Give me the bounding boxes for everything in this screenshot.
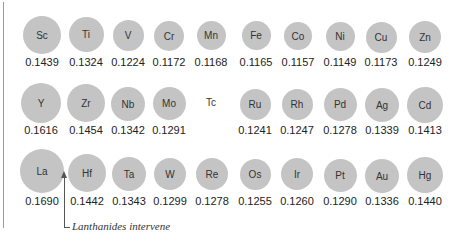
atom-label-tc: Tc: [196, 97, 226, 108]
atom-circle-rh: Rh: [282, 89, 313, 120]
atom-circle-co: Co: [284, 22, 312, 50]
radius-value-cr: 0.1172: [153, 56, 186, 68]
radius-value-ag: 0.1339: [365, 124, 399, 136]
atom-circle-cu: Cu: [366, 22, 397, 53]
radius-value-mn: 0.1168: [195, 56, 228, 68]
radius-value-cu: 0.1173: [365, 56, 398, 68]
atom-circle-zn: Zn: [409, 21, 441, 53]
atom-circle-ag: Ag: [365, 88, 399, 122]
atom-circle-pd: Pd: [324, 88, 357, 121]
radius-value-la: 0.1690: [25, 195, 59, 207]
atom-circle-nb: Nb: [111, 87, 145, 121]
atom-circle-hf: Hf: [68, 154, 106, 192]
radius-value-ta: 0.1343: [112, 195, 146, 207]
atom-circle-fe: Fe: [242, 21, 271, 50]
radius-value-ti: 0.1324: [69, 56, 103, 68]
arrow-line: [64, 175, 65, 228]
lanthanides-note: Lanthanides intervene: [72, 220, 170, 232]
atom-circle-y: Y: [21, 83, 61, 123]
atom-circle-cr: Cr: [154, 21, 184, 51]
radius-value-ni: 0.1149: [324, 56, 357, 68]
atom-circle-ti: Ti: [69, 17, 104, 52]
radius-value-nb: 0.1342: [111, 124, 145, 136]
radius-value-zn: 0.1249: [408, 56, 442, 68]
radius-value-sc: 0.1439: [25, 56, 59, 68]
radius-value-rh: 0.1247: [280, 124, 314, 136]
atom-circle-sc: Sc: [23, 16, 61, 54]
atom-circle-la: La: [20, 149, 64, 193]
atom-circle-pt: Pt: [324, 159, 357, 192]
radius-value-re: 0.1278: [195, 195, 229, 207]
atom-circle-ir: Ir: [281, 158, 313, 190]
atom-circle-ru: Ru: [240, 89, 271, 120]
atom-circle-mo: Mo: [153, 87, 186, 120]
atom-circle-ta: Ta: [112, 157, 146, 191]
atom-circle-zr: Zr: [67, 84, 105, 122]
radius-value-ir: 0.1260: [280, 195, 314, 207]
radius-value-hg: 0.1440: [408, 195, 442, 207]
radius-value-fe: 0.1165: [240, 56, 273, 68]
radius-value-w: 0.1299: [153, 195, 187, 207]
radius-value-y: 0.1616: [24, 124, 58, 136]
atom-circle-os: Os: [240, 159, 271, 190]
atom-circle-au: Au: [365, 159, 399, 193]
radius-value-v: 0.1224: [111, 56, 145, 68]
radius-value-hf: 0.1442: [70, 195, 104, 207]
radius-value-cd: 0.1413: [408, 124, 442, 136]
radius-value-mo: 0.1291: [152, 124, 186, 136]
radius-value-pt: 0.1290: [323, 195, 357, 207]
atom-circle-w: W: [154, 158, 186, 190]
atom-circle-ni: Ni: [326, 22, 355, 51]
atom-circle-re: Re: [196, 158, 228, 190]
left-border-rule: [3, 2, 4, 228]
radius-value-co: 0.1157: [282, 56, 315, 68]
atom-circle-cd: Cd: [407, 87, 443, 123]
radius-value-ru: 0.1241: [238, 124, 272, 136]
atom-circle-v: V: [113, 20, 144, 51]
radius-value-os: 0.1255: [238, 195, 272, 207]
atom-circle-mn: Mn: [197, 21, 226, 50]
atom-circle-hg: Hg: [407, 157, 443, 193]
radius-value-pd: 0.1278: [323, 124, 357, 136]
radius-value-au: 0.1336: [365, 195, 399, 207]
radius-value-zr: 0.1454: [69, 124, 103, 136]
arrow-foot: [64, 227, 70, 228]
